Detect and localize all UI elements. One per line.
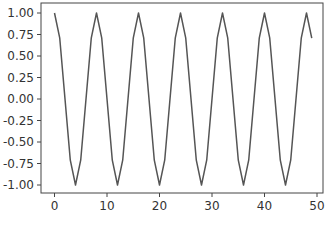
x-tick-label: 20 — [152, 199, 167, 213]
y-tick-label: 0.75 — [7, 28, 34, 42]
y-tick-label: 0.50 — [7, 49, 34, 63]
x-tick-label: 30 — [204, 199, 219, 213]
x-tick-label: 0 — [51, 199, 59, 213]
y-tick-label: 1.00 — [7, 6, 34, 20]
y-tick-label: 0.25 — [7, 71, 34, 85]
y-tick-label: -0.25 — [3, 114, 34, 128]
x-tick-label: 10 — [99, 199, 114, 213]
line-chart: 1.000.750.500.250.00-0.25-0.50-0.75-1.00… — [0, 0, 330, 227]
y-tick-label: -0.75 — [3, 157, 34, 171]
y-tick-label: -0.50 — [3, 135, 34, 149]
x-tick-label: 50 — [309, 199, 324, 213]
y-tick-label: 0.00 — [7, 92, 34, 106]
y-axis: 1.000.750.500.250.00-0.25-0.50-0.75-1.00 — [3, 6, 41, 192]
x-axis: 01020304050 — [51, 193, 325, 213]
x-tick-label: 40 — [257, 199, 272, 213]
y-tick-label: -1.00 — [3, 178, 34, 192]
